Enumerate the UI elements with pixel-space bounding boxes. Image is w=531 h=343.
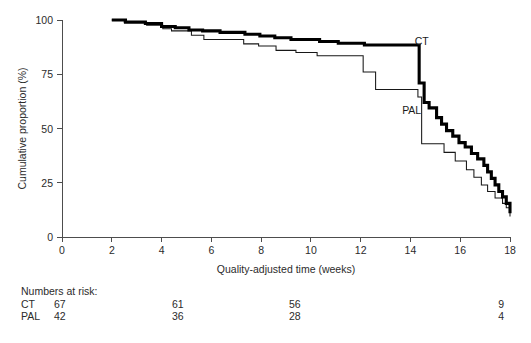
y-tick-label: 50 xyxy=(41,123,53,135)
risk-value-ct: 56 xyxy=(289,298,301,310)
risk-value-ct: 67 xyxy=(54,298,66,310)
risk-value-ct: 9 xyxy=(498,298,504,310)
x-tick-label: 6 xyxy=(208,244,214,256)
y-tick-label: 25 xyxy=(41,177,53,189)
y-tick-label: 100 xyxy=(35,14,53,26)
x-tick-label: 10 xyxy=(305,244,317,256)
x-tick-label: 16 xyxy=(454,244,466,256)
risk-table-title: Numbers at risk: xyxy=(21,285,97,297)
series-label-ct: CT xyxy=(415,35,430,47)
x-tick-label: 0 xyxy=(59,244,65,256)
km-chart-svg: 100 75 50 25 0 Cumulative proportion (%)… xyxy=(0,0,531,343)
series-line-ct xyxy=(112,20,510,213)
risk-value-pal: 36 xyxy=(172,310,184,322)
kaplan-meier-figure: 100 75 50 25 0 Cumulative proportion (%)… xyxy=(0,0,531,343)
y-axis-title: Cumulative proportion (%) xyxy=(16,68,28,190)
y-tick-label: 75 xyxy=(41,68,53,80)
x-tick-label: 8 xyxy=(258,244,264,256)
x-axis-ticks xyxy=(62,237,510,242)
y-axis-ticks xyxy=(57,20,62,237)
risk-row-label-ct: CT xyxy=(21,298,36,310)
x-axis-tick-labels: 0 2 4 6 8 10 12 14 16 18 xyxy=(59,244,516,256)
risk-value-pal: 28 xyxy=(289,310,301,322)
series-label-pal: PAL xyxy=(402,104,421,116)
y-axis-tick-labels: 100 75 50 25 0 xyxy=(35,14,53,243)
x-tick-label: 14 xyxy=(405,244,417,256)
y-tick-label: 0 xyxy=(47,231,53,243)
risk-row-label-pal: PAL xyxy=(21,310,40,322)
x-tick-label: 18 xyxy=(504,244,516,256)
x-axis-title: Quality-adjusted time (weeks) xyxy=(217,263,355,275)
x-tick-label: 4 xyxy=(159,244,165,256)
series-line-pal xyxy=(112,20,510,216)
x-tick-label: 2 xyxy=(109,244,115,256)
risk-value-pal: 4 xyxy=(498,310,504,322)
risk-value-pal: 42 xyxy=(54,310,66,322)
x-tick-label: 12 xyxy=(355,244,367,256)
risk-value-ct: 61 xyxy=(172,298,184,310)
